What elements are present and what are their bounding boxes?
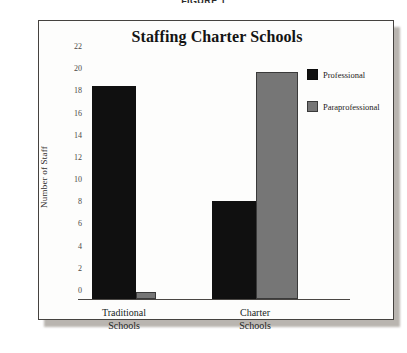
y-tick-label: 8 xyxy=(78,197,82,206)
x-tick-label-line: Schools xyxy=(212,319,298,332)
figure-caption: FIGURE 1 xyxy=(0,0,407,3)
chart-legend: ProfessionalParaprofessional xyxy=(307,69,391,133)
bar-professional-charter-schools xyxy=(212,201,256,299)
x-tick-label: TraditionalSchools xyxy=(92,306,156,332)
bar-group xyxy=(212,55,298,299)
y-tick-label: 12 xyxy=(74,152,82,161)
legend-item-paraprofessional[interactable]: Paraprofessional xyxy=(307,101,391,112)
x-tick-label: CharterSchools xyxy=(212,306,298,332)
x-tick-label-line: Charter xyxy=(212,306,298,319)
y-tick-label: 6 xyxy=(78,219,82,228)
y-tick-label: 22 xyxy=(74,42,82,51)
x-tick-label-line: Traditional xyxy=(92,306,156,319)
figure-root: FIGURE 1 Staffing Charter Schools Number… xyxy=(0,0,407,353)
chart-title: Staffing Charter Schools xyxy=(39,28,395,46)
y-axis-title: Number of Staff xyxy=(39,146,49,208)
y-tick-label: 4 xyxy=(78,241,82,250)
y-tick-label: 2 xyxy=(78,263,82,272)
y-tick-label: 18 xyxy=(74,86,82,95)
chart-frame: Staffing Charter Schools Number of Staff… xyxy=(38,20,394,320)
bar-paraprofessional-charter-schools xyxy=(256,72,298,299)
legend-label: Paraprofessional xyxy=(323,102,380,112)
x-tick-label-line: Schools xyxy=(92,319,156,332)
y-tick-label: 16 xyxy=(74,108,82,117)
y-tick-label: 14 xyxy=(74,130,82,139)
bar-group xyxy=(92,55,156,299)
legend-swatch-icon xyxy=(307,101,318,112)
y-tick-label: 0 xyxy=(78,286,82,295)
y-tick-label: 10 xyxy=(74,175,82,184)
bar-paraprofessional-traditional-schools xyxy=(136,292,156,299)
legend-label: Professional xyxy=(323,70,365,80)
legend-item-professional[interactable]: Professional xyxy=(307,69,391,80)
bar-professional-traditional-schools xyxy=(92,86,136,299)
legend-swatch-icon xyxy=(307,69,318,80)
x-axis-line xyxy=(78,299,350,300)
y-tick-label: 20 xyxy=(74,64,82,73)
